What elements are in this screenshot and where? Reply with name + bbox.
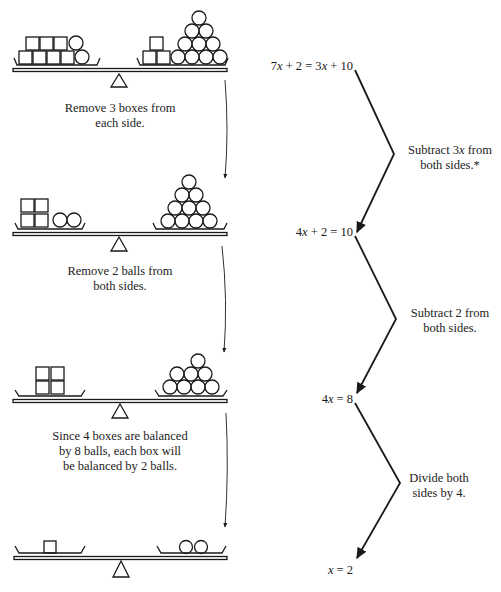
scale-2 xyxy=(13,175,227,251)
equation-4: x = 2 xyxy=(328,563,353,578)
left-boxes xyxy=(21,199,48,227)
arrow-scale-3-to-4 xyxy=(225,413,227,527)
step-label-1: Subtract 3x from both sides.* xyxy=(402,143,498,173)
caption-scale-2: Remove 2 balls from both sides. xyxy=(40,264,200,294)
caption-line: Remove 3 boxes from xyxy=(40,101,200,116)
caption-line: Remove 2 balls from xyxy=(40,264,200,279)
beam xyxy=(13,400,227,403)
scale-4 xyxy=(14,541,227,578)
balance-diagram xyxy=(0,0,501,592)
left-boxes xyxy=(19,37,74,64)
step-line: Divide both xyxy=(404,471,474,486)
equation-2: 4x + 2 = 10 xyxy=(296,225,353,240)
caption-line: each side. xyxy=(40,116,200,131)
left-balls xyxy=(53,213,81,227)
fulcrum-icon xyxy=(113,561,129,577)
scale-3 xyxy=(13,354,227,418)
step-line: both sides. xyxy=(402,321,498,336)
right-balls xyxy=(171,11,227,64)
right-balls xyxy=(163,354,219,394)
step-label-3: Divide both sides by 4. xyxy=(404,471,474,501)
beam xyxy=(13,69,227,72)
zigzag-arrow-2 xyxy=(355,236,396,393)
right-balls xyxy=(161,175,217,228)
arrow-scale-2-to-3 xyxy=(222,246,226,352)
fulcrum-icon xyxy=(111,74,127,87)
equation-3: 4x = 8 xyxy=(322,392,353,407)
fulcrum-icon xyxy=(112,404,128,418)
step-line: Subtract 3x from xyxy=(402,143,498,158)
left-pan xyxy=(15,223,85,229)
step-line: Subtract 2 from xyxy=(402,306,498,321)
fulcrum-icon xyxy=(111,237,127,251)
step-line: sides by 4. xyxy=(404,486,474,501)
equation-1: 7x + 2 = 3x + 10 xyxy=(271,59,353,74)
caption-scale-1: Remove 3 boxes from each side. xyxy=(40,101,200,131)
step-label-2: Subtract 2 from both sides. xyxy=(402,306,498,336)
caption-line: by 8 balls, each box will xyxy=(30,444,210,459)
zigzag-arrow-1 xyxy=(355,70,394,232)
caption-line: Since 4 boxes are balanced xyxy=(30,429,210,444)
box xyxy=(44,541,56,553)
arrow-scale-1-to-2 xyxy=(225,80,227,178)
left-boxes xyxy=(36,367,64,394)
ball xyxy=(180,541,193,554)
right-boxes xyxy=(143,37,170,64)
caption-line: both sides. xyxy=(40,279,200,294)
beam xyxy=(13,233,227,236)
ball xyxy=(195,541,208,554)
caption-scale-3: Since 4 boxes are balanced by 8 balls, e… xyxy=(30,429,210,474)
beam xyxy=(14,557,227,560)
left-pan xyxy=(15,390,85,396)
left-balls xyxy=(69,36,89,64)
step-line: both sides.* xyxy=(402,158,498,173)
left-pan xyxy=(15,546,85,553)
scale-1 xyxy=(13,11,228,87)
caption-line: be balanced by 2 balls. xyxy=(30,459,210,474)
zigzag-arrow-3 xyxy=(355,403,400,558)
